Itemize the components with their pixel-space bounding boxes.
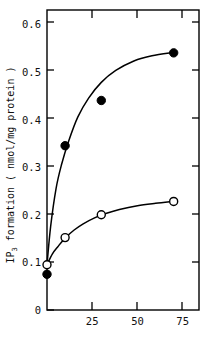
svg-text:IP3 formation ( nmol/mg prote: IP3 formation ( nmol/mg protein ) [5,67,19,264]
y-tick-label: 0.1 [22,256,41,268]
y-tick-label: 0.2 [22,209,41,221]
y-axis-title: IP3 formation ( nmol/mg protein ) [5,67,19,264]
y-tick-label: 0.6 [22,18,41,30]
x-axis-ticks [92,302,182,310]
x-tick-labels: 255075 [86,315,189,327]
open-series-markers [43,197,178,268]
y-tick-label: 0.3 [22,161,41,173]
figure-container: 00.10.20.30.40.50.6 255075 IP3 formation… [0,0,207,338]
y-tick-labels: 00.10.20.30.40.50.6 [22,18,41,316]
y-tick-label: 0.5 [22,66,41,78]
x-tick-label: 75 [176,315,189,327]
data-point [43,270,51,278]
data-point [61,142,69,150]
x-axis-ticks-top [92,10,182,18]
data-point [170,197,178,205]
data-point [97,211,105,219]
data-point [43,261,51,269]
y-axis-ticks-right [192,22,199,262]
filled-series-curve [47,52,174,264]
y-tick-label: 0 [35,304,41,316]
filled-series-markers [43,49,178,279]
data-point [61,234,69,242]
x-tick-label: 50 [131,315,144,327]
data-point [169,49,177,57]
chart-svg: 00.10.20.30.40.50.6 255075 IP3 formation… [0,0,207,338]
x-tick-label: 25 [86,315,99,327]
y-tick-label: 0.4 [22,114,41,126]
data-point [97,96,105,104]
